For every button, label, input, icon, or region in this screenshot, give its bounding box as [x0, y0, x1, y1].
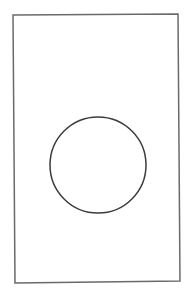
- circle-shape: [50, 117, 146, 213]
- diagram-canvas: [0, 0, 196, 307]
- rectangle-frame: [13, 14, 180, 283]
